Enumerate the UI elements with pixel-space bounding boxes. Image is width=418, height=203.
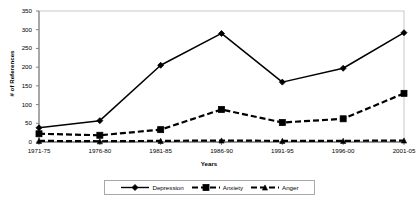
data-point-marker bbox=[97, 132, 103, 138]
y-tick-label: 250 bbox=[10, 44, 32, 51]
x-tick-label: 1981-85 bbox=[135, 147, 187, 154]
y-tick-label: 0 bbox=[10, 138, 32, 145]
legend-label: Anxiety bbox=[223, 184, 243, 191]
x-tick-label: 2001-05 bbox=[378, 147, 418, 154]
y-tick-label: 50 bbox=[10, 119, 32, 126]
chart-legend: DepressionAnxietyAnger bbox=[104, 180, 315, 195]
legend-swatch-square-icon bbox=[191, 183, 221, 192]
y-tick-label: 350 bbox=[10, 7, 32, 14]
data-point-marker bbox=[36, 131, 42, 137]
x-tick-label: 1996-00 bbox=[317, 147, 369, 154]
legend-label: Depression bbox=[152, 184, 183, 191]
data-point-marker bbox=[158, 127, 164, 133]
plot-area bbox=[0, 0, 418, 203]
legend-item-depression: Depression bbox=[120, 183, 183, 192]
y-tick-label: 150 bbox=[10, 82, 32, 89]
legend-swatch-triangle-icon bbox=[250, 183, 280, 192]
y-tick-label: 200 bbox=[10, 63, 32, 70]
y-tick-label: 300 bbox=[10, 26, 32, 33]
x-tick-label: 1976-80 bbox=[74, 147, 126, 154]
line-chart: # of References Years 050100150200250300… bbox=[0, 0, 418, 203]
x-tick-label: 1991-95 bbox=[256, 147, 308, 154]
x-tick-label: 1971-75 bbox=[13, 147, 65, 154]
data-point-marker bbox=[401, 90, 407, 96]
legend-swatch-diamond-icon bbox=[120, 183, 150, 192]
legend-item-anger: Anger bbox=[250, 183, 299, 192]
x-axis-title: Years bbox=[0, 160, 418, 167]
legend-item-anxiety: Anxiety bbox=[191, 183, 243, 192]
data-point-marker bbox=[219, 106, 225, 112]
legend-label: Anger bbox=[282, 184, 299, 191]
x-tick-label: 1986-90 bbox=[196, 147, 248, 154]
y-tick-label: 100 bbox=[10, 101, 32, 108]
data-point-marker bbox=[279, 120, 285, 126]
data-point-marker bbox=[340, 116, 346, 122]
